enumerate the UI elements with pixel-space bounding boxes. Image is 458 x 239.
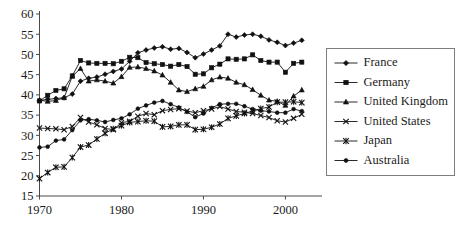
x-tick-label: 2000 xyxy=(273,203,298,217)
y-tick-label: 55 xyxy=(21,28,34,42)
legend-marker-square-icon xyxy=(344,80,348,84)
legend-item-label: United States xyxy=(364,114,431,128)
series-germany xyxy=(37,53,304,103)
chart-figure: 15202530354045505560 1970198019902000 Fr… xyxy=(0,0,458,239)
x-tick-label: 1970 xyxy=(27,203,52,217)
legend-item-label: United Kingdom xyxy=(364,94,449,108)
y-tick-label: 50 xyxy=(21,48,34,62)
x-axis: 1970198019902000 xyxy=(27,196,322,217)
legend-marker-dot-icon xyxy=(344,159,348,163)
y-tick-label: 15 xyxy=(21,189,34,203)
y-tick-label: 25 xyxy=(21,149,34,163)
line-chart-plot: 15202530354045505560 1970198019902000 Fr… xyxy=(0,0,458,239)
y-tick-label: 45 xyxy=(21,68,34,82)
y-tick-label: 40 xyxy=(21,88,34,102)
legend-item-label: Germany xyxy=(364,75,411,89)
y-tick-label: 20 xyxy=(21,169,34,183)
series-layer xyxy=(37,32,305,182)
x-tick-label: 1990 xyxy=(191,203,216,217)
legend-item-label: Japan xyxy=(364,133,393,147)
y-axis: 15202530354045505560 xyxy=(21,7,40,203)
x-tick-label: 1980 xyxy=(109,203,134,217)
legend-item-label: France xyxy=(364,55,398,69)
y-tick-label: 30 xyxy=(21,129,34,143)
y-tick-label: 35 xyxy=(21,108,34,122)
legend-item-label: Australia xyxy=(364,153,410,167)
y-tick-label: 60 xyxy=(21,7,34,21)
chart-legend: FranceGermanyUnited KingdomUnited States… xyxy=(327,49,455,176)
